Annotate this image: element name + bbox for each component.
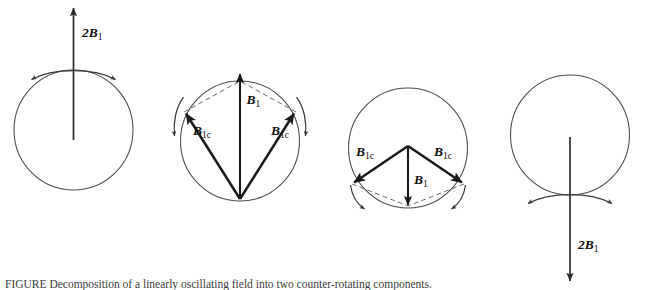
panel-3-components-down: B1 B1c B1c xyxy=(349,88,468,209)
panel-3-dashed-left xyxy=(352,184,408,206)
panel-3-label-b1c-right: B1c xyxy=(433,144,452,161)
panel-4-rotation-arc-left xyxy=(528,195,570,204)
panel-3-label-b1: B1 xyxy=(413,172,428,189)
panel-2-dashed-left xyxy=(184,81,240,112)
panel-2-components-up: B1 B1c B1c xyxy=(174,74,306,201)
panel-3-dashed-right xyxy=(408,184,464,206)
panel-4-linear-field-down: 2B1 xyxy=(511,75,630,281)
panel-1-rotation-arc-right xyxy=(74,71,116,80)
panel-2-label-b1: B1 xyxy=(246,92,261,109)
panel-3-label-b1c-left: B1c xyxy=(355,144,374,161)
panel-1-label-2b1: 2B1 xyxy=(81,25,103,42)
panel-4-rotation-arc-right xyxy=(570,195,612,204)
panel-2-label-b1c-left: B1c xyxy=(192,123,211,140)
panel-1-linear-field-up: 2B1 xyxy=(14,8,133,190)
figure-caption: FIGURE Decomposition of a linearly oscil… xyxy=(5,278,645,290)
panel-2-component-vector-right xyxy=(240,114,294,200)
panel-2-rotation-arc-left xyxy=(174,97,183,136)
panel-4-label-2b1: 2B1 xyxy=(577,237,599,254)
panel-1-rotation-arc-left xyxy=(32,71,74,80)
panel-2-rotation-arc-right xyxy=(297,97,306,136)
